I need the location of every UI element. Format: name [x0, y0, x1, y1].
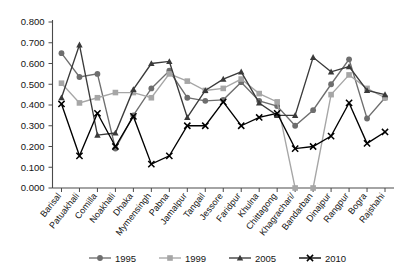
data-point-square — [95, 95, 101, 101]
data-point-square — [346, 72, 352, 78]
data-point-circle — [97, 255, 103, 261]
data-point-square — [328, 92, 334, 98]
data-point-x — [58, 101, 64, 107]
data-point-triangle — [58, 94, 64, 100]
data-point-circle — [310, 107, 316, 113]
series-2010 — [58, 99, 388, 167]
y-tick-label: 0.000 — [21, 182, 45, 193]
y-tick-label: 0.700 — [21, 37, 45, 48]
data-point-square — [310, 185, 316, 191]
data-point-square — [113, 90, 119, 96]
data-point-circle — [346, 56, 352, 62]
line-chart: 0.0000.1000.2000.3000.4000.5000.6000.700… — [0, 0, 408, 280]
chart-canvas: 0.0000.1000.2000.3000.4000.5000.6000.700… — [0, 0, 408, 280]
legend-label-1999: 1999 — [185, 253, 206, 264]
data-point-circle — [148, 86, 154, 92]
legend-label-2005: 2005 — [255, 253, 276, 264]
data-point-square — [149, 95, 155, 101]
data-point-square — [274, 99, 280, 105]
data-point-square — [185, 78, 191, 84]
data-point-x — [328, 133, 334, 139]
data-point-circle — [202, 98, 208, 104]
series-layer — [58, 42, 388, 191]
legend-item-1999: 1999 — [159, 253, 206, 264]
data-point-square — [77, 100, 83, 106]
data-point-triangle — [310, 54, 316, 60]
data-point-x — [382, 129, 388, 135]
data-point-square — [59, 80, 65, 86]
data-point-x — [238, 123, 244, 129]
data-point-x — [148, 161, 154, 167]
data-point-circle — [95, 71, 101, 77]
data-point-square — [167, 255, 173, 261]
x-tick-labels: BarisalPatuakhaliComillaNoakhaliDhakaMym… — [38, 191, 386, 238]
y-tick-label: 0.300 — [21, 120, 45, 131]
data-point-circle — [77, 74, 83, 80]
y-tick-label: 0.600 — [21, 58, 45, 69]
data-point-x — [76, 153, 82, 159]
data-point-circle — [184, 95, 190, 101]
data-point-circle — [292, 123, 298, 129]
legend-item-2010: 2010 — [299, 253, 346, 264]
data-point-square — [167, 71, 173, 77]
data-point-square — [292, 185, 298, 191]
data-point-triangle — [76, 42, 82, 48]
legend-label-1995: 1995 — [115, 253, 136, 264]
data-point-circle — [328, 81, 334, 87]
y-tick-label: 0.800 — [21, 16, 45, 27]
data-point-circle — [364, 116, 370, 122]
data-point-x — [346, 100, 352, 106]
y-tick-label: 0.400 — [21, 99, 45, 110]
series-1999 — [59, 71, 388, 191]
legend-label-2010: 2010 — [325, 253, 346, 264]
data-point-square — [220, 86, 226, 92]
y-tick-label: 0.500 — [21, 79, 45, 90]
data-point-circle — [59, 50, 65, 56]
data-point-x — [364, 140, 370, 146]
data-point-x — [94, 110, 100, 116]
y-tick-label: 0.100 — [21, 162, 45, 173]
y-axis: 0.0000.1000.2000.3000.4000.5000.6000.700… — [21, 16, 53, 193]
legend-item-2005: 2005 — [229, 253, 276, 264]
data-point-square — [238, 76, 244, 82]
data-point-x — [166, 153, 172, 159]
data-point-triangle — [238, 69, 244, 75]
y-tick-label: 0.200 — [21, 141, 45, 152]
legend-item-1995: 1995 — [89, 253, 136, 264]
chart-container: 0.0000.1000.2000.3000.4000.5000.6000.700… — [0, 0, 408, 280]
data-point-square — [256, 91, 262, 97]
chart-legend: 1995199920052010 — [89, 253, 346, 264]
